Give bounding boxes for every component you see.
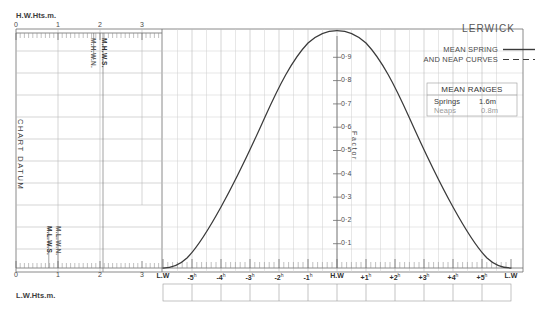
- time-label-minus-1h: -1h: [294, 272, 322, 281]
- time-label-plus-5h: +5h: [468, 272, 496, 281]
- mlws-label: M.L.W.S.: [46, 226, 53, 255]
- height-tick-top-3: 3: [140, 21, 144, 28]
- chart-datum-label: CHART DATUM: [16, 119, 25, 190]
- height-grid-vertical: [58, 29, 142, 272]
- mean-ranges-title: MEAN RANGES: [427, 85, 517, 94]
- mhws-label: M.H.W.S.: [101, 38, 108, 68]
- time-label-text: L.W: [505, 272, 518, 279]
- height-tick-bottom-3: 3: [140, 271, 144, 278]
- factor-axis-label: Factor: [351, 131, 358, 161]
- station-title: LERWICK: [462, 23, 515, 34]
- time-label-text: +3: [419, 274, 427, 281]
- time-label-minus-4h: -4h: [207, 272, 235, 281]
- factor-tick-0-6: 0·6: [341, 123, 352, 130]
- mhwn-label: M.H.W.N.: [90, 38, 97, 68]
- time-label-sup: h: [310, 272, 313, 278]
- time-label-text: H.W: [330, 272, 344, 279]
- factor-tick-0-2: 0·2: [341, 216, 352, 223]
- time-label-sup: h: [194, 272, 197, 278]
- time-label-text: +5: [477, 274, 485, 281]
- time-label-plus-1h: +1h: [352, 272, 380, 281]
- time-label-sup: h: [223, 272, 226, 278]
- time-label-sup: h: [456, 272, 459, 278]
- time-label-text: +2: [390, 274, 398, 281]
- time-label-hw: H.W: [323, 272, 351, 279]
- springs-value: 1.6m: [479, 97, 496, 106]
- height-tick-top-2: 2: [98, 21, 102, 28]
- time-label-text: L.W: [157, 272, 170, 279]
- time-ruler: [162, 259, 523, 268]
- mean-ranges-springs-value: 1.6m: [479, 97, 496, 106]
- mean-ranges-springs-label: Springs: [434, 97, 460, 106]
- factor-tick-0-7: 0·7: [341, 100, 352, 107]
- time-label-sup: h: [369, 272, 372, 278]
- factor-tick-0-9: 0·9: [341, 53, 352, 60]
- neaps-key: Neaps: [434, 106, 456, 115]
- time-label-plus-3h: +3h: [410, 272, 438, 281]
- mlwn-label: M.L.W.N.: [55, 226, 62, 255]
- mean-ranges-neaps-label: Neaps: [434, 106, 456, 115]
- height-tick-bottom-1: 1: [56, 271, 60, 278]
- time-label-minus-2h: -2h: [265, 272, 293, 281]
- height-tick-top-0: 0: [14, 21, 18, 28]
- neaps-value: 0.8m: [481, 106, 498, 115]
- time-label-lw-end: L.W: [497, 272, 525, 279]
- factor-tick-0-3: 0·3: [341, 193, 352, 200]
- tidal-curve-sheet: .grid{stroke:#b9b9b9;stroke-width:0.6;} …: [0, 0, 545, 309]
- factor-tick-0-4: 0·4: [341, 170, 352, 177]
- height-ruler-top: [16, 33, 162, 40]
- time-label-text: +1: [361, 274, 369, 281]
- time-label-lw-start: L.W: [149, 272, 177, 279]
- lw-heights-caption: L.W.Hts.m.: [16, 291, 55, 300]
- time-label-sup: h: [485, 272, 488, 278]
- time-label-sup: h: [427, 272, 430, 278]
- factor-tick-0-8: 0·8: [341, 76, 352, 83]
- time-label-sup: h: [398, 272, 401, 278]
- springs-key: Springs: [434, 97, 460, 106]
- height-tick-bottom-2: 2: [98, 271, 102, 278]
- time-label-sup: h: [281, 272, 284, 278]
- factor-tick-0-1: 0·1: [341, 239, 352, 246]
- height-grid-horizontal: [16, 51, 162, 249]
- height-tick-top-1: 1: [56, 21, 60, 28]
- height-ruler-bottom: [16, 261, 162, 268]
- height-tick-bottom-0: 0: [14, 271, 18, 278]
- time-label-sup: h: [252, 272, 255, 278]
- time-label-text: +4: [448, 274, 456, 281]
- legend-mean-spring-label: MEAN SPRING: [388, 45, 498, 54]
- time-label-minus-5h: -5h: [178, 272, 206, 281]
- time-entry-boxes[interactable]: [163, 284, 511, 301]
- legend-neap-curves-label: AND NEAP CURVES: [368, 55, 498, 64]
- hw-heights-caption: H.W.Hts.m.: [16, 11, 56, 20]
- time-label-plus-2h: +2h: [381, 272, 409, 281]
- time-label-plus-4h: +4h: [439, 272, 467, 281]
- mean-ranges-neaps-value: 0.8m: [481, 106, 498, 115]
- time-label-minus-3h: -3h: [236, 272, 264, 281]
